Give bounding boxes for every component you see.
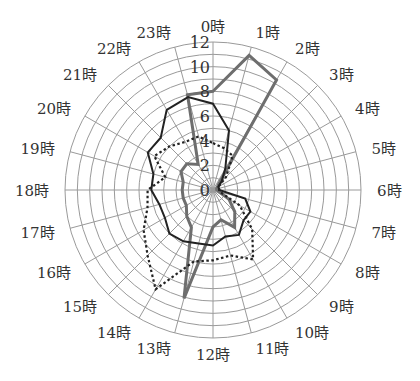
hour-label: 5時 — [371, 140, 396, 158]
hour-label: 8時 — [355, 264, 380, 282]
grid-spoke — [213, 190, 318, 295]
hour-label: 11時 — [255, 340, 289, 358]
hour-label: 0時 — [201, 18, 226, 36]
hour-label: 9時 — [329, 298, 354, 316]
radial-tick-label: 0 — [200, 181, 210, 200]
hour-label: 4時 — [355, 100, 380, 118]
hour-label: 2時 — [295, 40, 320, 58]
radar-grid — [65, 42, 361, 338]
hour-label: 22時 — [97, 40, 131, 58]
hour-label: 13時 — [137, 340, 171, 358]
hour-label: 7時 — [371, 224, 396, 242]
radial-tick-labels: 024681012 — [190, 33, 210, 200]
radial-tick-label: 8 — [200, 82, 210, 101]
hour-label: 21時 — [63, 66, 97, 84]
radar-chart: 024681012 0時1時2時3時4時5時6時7時8時9時10時11時12時1… — [0, 0, 420, 381]
hour-label: 6時 — [377, 182, 402, 200]
hour-label: 15時 — [63, 298, 97, 316]
grid-spoke — [213, 116, 341, 190]
hour-label: 12時 — [196, 346, 230, 364]
hour-label: 14時 — [97, 324, 131, 342]
hour-label: 23時 — [137, 24, 171, 42]
hour-label: 19時 — [21, 140, 55, 158]
radial-tick-label: 6 — [200, 107, 210, 126]
hour-label: 3時 — [329, 66, 354, 84]
radial-tick-label: 4 — [200, 132, 210, 151]
hour-label: 18時 — [15, 182, 49, 200]
hour-label: 20時 — [37, 100, 71, 118]
hour-label: 17時 — [21, 224, 55, 242]
grid-spoke — [85, 190, 213, 264]
radial-tick-label: 2 — [200, 156, 210, 175]
hour-label: 1時 — [255, 24, 280, 42]
radar-chart-svg: 024681012 0時1時2時3時4時5時6時7時8時9時10時11時12時1… — [0, 0, 420, 381]
hour-label: 10時 — [295, 324, 329, 342]
radial-tick-label: 10 — [190, 58, 210, 77]
hour-label: 16時 — [37, 264, 71, 282]
